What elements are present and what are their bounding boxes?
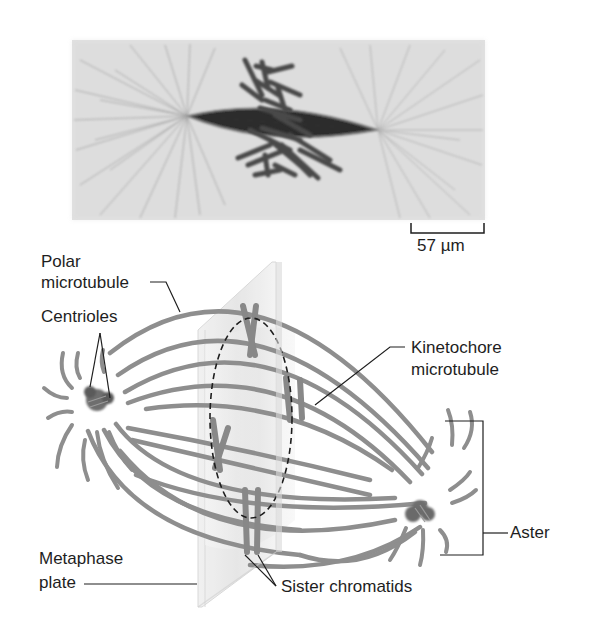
label-kinetochore-microtubule-line2: microtubule (411, 360, 499, 379)
label-sister-chromatids: Sister chromatids (281, 577, 412, 596)
polar-microtubule-leader (150, 282, 180, 312)
centrioles-leader-1 (90, 333, 100, 387)
left-aster (44, 350, 132, 488)
label-metaphase-plate-line2: plate (39, 573, 76, 592)
label-aster: Aster (510, 523, 550, 542)
label-metaphase-plate-line1: Metaphase (39, 549, 123, 568)
scale-bar-label: 57 µm (417, 236, 465, 255)
micrograph-image (72, 40, 485, 233)
label-polar-microtubule-line2: microtubule (41, 273, 129, 292)
aster-bracket (440, 421, 483, 555)
label-polar-microtubule-line1: Polar (41, 252, 81, 271)
label-kinetochore-microtubule-line1: Kinetochore (411, 338, 502, 357)
mitosis-figure: 57 µm Polar microtubule Centrioles Kinet… (0, 0, 589, 636)
left-centrosome (84, 386, 114, 411)
scale-bar (411, 223, 484, 233)
label-centrioles: Centrioles (41, 307, 118, 326)
